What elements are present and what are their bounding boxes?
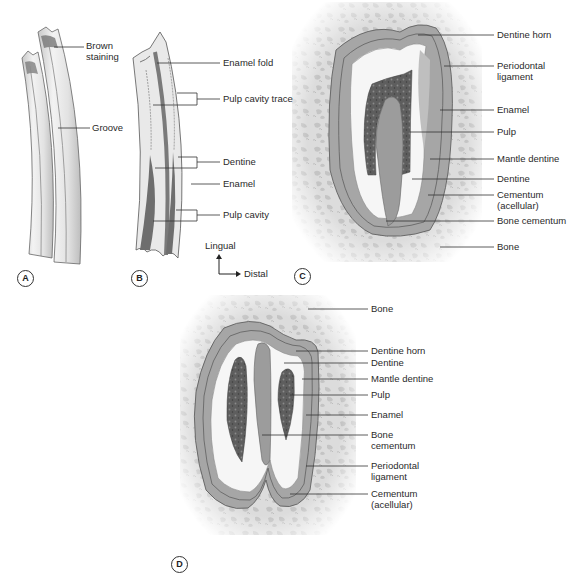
label-mantle-dentine-c: Mantle dentine (497, 153, 559, 164)
panel-a-illustration (22, 27, 90, 264)
panel-label-c: C (294, 268, 311, 285)
label-cementum-c: Cementum (acellular) (497, 189, 543, 211)
label-periodontal-ligament-c: Periodontal ligament (497, 60, 545, 82)
label-pulp-cavity-trace: Pulp cavity trace (223, 93, 293, 104)
panel-b-illustration (133, 32, 220, 258)
label-dentine-d: Dentine (371, 357, 404, 368)
label-enamel-fold: Enamel fold (223, 57, 273, 68)
label-pulp-cavity: Pulp cavity (223, 209, 269, 220)
orientation-arrows (216, 254, 241, 277)
label-pulp-c: Pulp (497, 126, 516, 137)
label-bone-cementum-c: Bone cementum (497, 215, 566, 226)
label-dentine-b: Dentine (223, 156, 256, 167)
label-dentine-horn-c: Dentine horn (497, 29, 551, 40)
panel-label-b: B (131, 270, 148, 287)
label-dentine-c: Dentine (497, 173, 530, 184)
label-periodontal-ligament-d: Periodontal ligament (371, 460, 419, 482)
panel-label-a: A (17, 270, 34, 287)
figure-canvas (0, 0, 581, 582)
label-bone-cementum-d: Bone cementum (371, 429, 415, 451)
label-pulp-d: Pulp (371, 389, 390, 400)
label-enamel-c: Enamel (497, 104, 529, 115)
label-dentine-horn-d: Dentine horn (371, 345, 425, 356)
label-distal: Distal (244, 268, 268, 279)
label-bone-d: Bone (371, 303, 393, 314)
label-brown-staining: Brown staining (86, 40, 119, 62)
label-enamel-b: Enamel (223, 178, 255, 189)
label-groove: Groove (92, 122, 123, 133)
label-bone-c: Bone (497, 241, 519, 252)
label-mantle-dentine-d: Mantle dentine (371, 373, 433, 384)
label-enamel-d: Enamel (371, 409, 403, 420)
label-lingual: Lingual (205, 240, 236, 251)
panel-label-d: D (171, 556, 188, 573)
label-cementum-d: Cementum (acellular) (371, 488, 417, 510)
